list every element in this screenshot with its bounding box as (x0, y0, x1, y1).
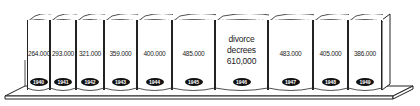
book-1940: 264.0001940 (27, 14, 50, 90)
book-spine: 483.0001947 (268, 20, 313, 90)
book-spine: 485.0001945 (172, 20, 215, 90)
book-spine: 359.0001943 (104, 20, 137, 90)
book-1946: divorcedecrees610,0001946 (215, 14, 268, 90)
book-1944: 400.0001944 (137, 14, 172, 90)
book-1948: 405.0001948 (313, 14, 348, 90)
value-label: 485.000 (173, 50, 214, 57)
value-label: 405.000 (314, 50, 347, 57)
year-badge: 1945 (185, 78, 203, 86)
year-badge: 1941 (54, 78, 72, 86)
value-label: 321.000 (77, 50, 103, 57)
book-spine: 405.0001948 (313, 20, 348, 90)
book-1949: 386.0001949 (348, 14, 382, 90)
value-label: 483.000 (269, 50, 312, 57)
book-spine: 321.0001942 (76, 20, 104, 90)
book-1942: 321.0001942 (76, 14, 104, 90)
year-badge: 1943 (112, 78, 130, 86)
book-1941: 293.0001941 (50, 14, 76, 90)
year-badge: 1942 (81, 78, 99, 86)
book-1947: 483.0001947 (268, 14, 313, 90)
value-label: divorcedecrees610,000 (216, 34, 267, 67)
value-label: 400.000 (138, 50, 171, 57)
book-1945: 485.0001945 (172, 14, 215, 90)
book-spine: 400.0001944 (137, 20, 172, 90)
year-badge: 1944 (146, 78, 164, 86)
year-badge: 1947 (282, 78, 300, 86)
book-spine: 293.0001941 (50, 20, 76, 90)
book-spine: 264.0001940 (27, 20, 50, 90)
value-label: 386.000 (349, 50, 381, 57)
year-badge: 1948 (322, 78, 340, 86)
year-badge: 1946 (233, 78, 251, 86)
divorce-books-chart: 264.0001940293.0001941321.0001942359.000… (0, 0, 420, 106)
year-badge: 1940 (30, 78, 48, 86)
book-1943: 359.0001943 (104, 14, 137, 90)
value-label: 293.000 (51, 50, 75, 57)
value-label: 359.000 (105, 50, 136, 57)
value-label: 264.000 (28, 50, 49, 57)
book-spine: 386.0001949 (348, 20, 382, 90)
book-spine: divorcedecrees610,0001946 (215, 20, 268, 90)
year-badge: 1949 (356, 78, 374, 86)
